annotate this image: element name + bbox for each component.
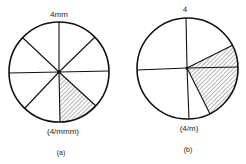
label-a-bottom: (4/mmm) <box>47 127 79 136</box>
shaded-sector-a <box>59 72 96 122</box>
stereogram-figure: 4mm (4/mmm) (a) 4 (4/m) (b) <box>0 0 246 164</box>
diagram-a: 4mm (4/mmm) (a) <box>9 10 109 157</box>
caption-a: (a) <box>57 149 66 157</box>
caption-b: (b) <box>184 146 193 154</box>
center-dot-a <box>57 70 61 74</box>
label-b-top: 4 <box>183 5 188 14</box>
diagram-b: 4 (4/m) (b) <box>137 5 239 154</box>
label-b-bottom: (4/m) <box>180 124 199 133</box>
label-a-top: 4mm <box>50 10 68 19</box>
center-dot-b <box>185 66 188 69</box>
